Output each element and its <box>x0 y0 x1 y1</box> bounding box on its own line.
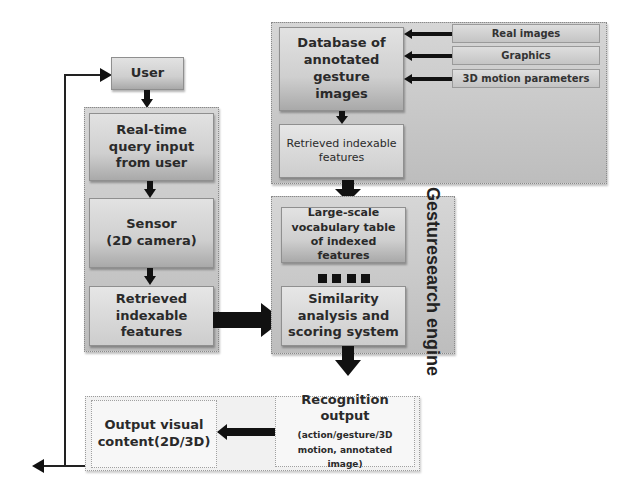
user-label: User <box>131 65 165 82</box>
recognition-detail: (action/gesture/3D motion, annotated ima… <box>280 428 410 471</box>
source-3d-motion: 3D motion parameters <box>452 69 600 88</box>
link-connector <box>318 274 370 284</box>
arrow-left-icon <box>404 51 452 61</box>
sensor-label: Sensor <box>126 216 177 233</box>
visual-output-box: Output visual content(2D/3D) <box>91 400 217 468</box>
query-label: Real-time query input from user <box>94 122 209 173</box>
sensor-detail: (2D camera) <box>106 233 196 250</box>
feedback-line-vertical <box>64 74 66 466</box>
arrow-left-icon <box>217 424 275 440</box>
source-graphics: Graphics <box>452 46 600 65</box>
sensor-box: Sensor (2D camera) <box>89 198 214 268</box>
recognition-title: Recognition output <box>280 392 410 426</box>
database-retrieved-box: Retrieved indexable features <box>279 124 404 178</box>
similarity-label: Similarity analysis and scoring system <box>288 291 399 342</box>
arrow-left-icon <box>404 74 452 84</box>
arrow-down-icon <box>144 181 156 198</box>
recognition-box: Recognition output (action/gesture/3D mo… <box>275 396 415 467</box>
feedback-line-bottom <box>40 465 90 467</box>
feedback-line-top <box>64 74 102 76</box>
database-box: Database of annotated gesture images <box>279 27 404 111</box>
vocab-box: Large-scale vocabulary table of indexed … <box>281 207 406 263</box>
client-retrieved-label: Retrieved indexable features <box>108 291 195 342</box>
arrow-left-icon <box>404 29 452 39</box>
database-retrieved-label: Retrieved indexable features <box>286 137 397 166</box>
arrow-down-icon <box>336 111 348 124</box>
database-label: Database of annotated gesture images <box>286 35 397 103</box>
arrow-down-icon <box>144 268 156 285</box>
arrow-down-icon <box>141 90 153 108</box>
client-retrieved-box: Retrieved indexable features <box>89 286 214 346</box>
query-box: Real-time query input from user <box>89 113 214 181</box>
visual-output-label: Output visual content(2D/3D) <box>96 417 212 451</box>
engine-title: Gesture search engine <box>412 218 454 346</box>
user-box: User <box>111 57 184 90</box>
arrow-down-icon <box>335 346 361 376</box>
arrow-left-icon <box>32 459 44 473</box>
vocab-label: Large-scale vocabulary table of indexed … <box>286 206 401 263</box>
source-real-images: Real images <box>452 24 600 43</box>
similarity-box: Similarity analysis and scoring system <box>281 286 406 346</box>
